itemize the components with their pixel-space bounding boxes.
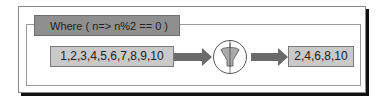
output-sequence-box: 2,4,6,8,10 [288,46,354,67]
input-sequence-box: 1,2,3,4,5,6,7,8,9,10 [50,46,174,67]
where-clause-header: Where ( n=> n%2 == 0 ) [34,15,180,36]
arrow-right-icon [174,47,214,67]
funnel-icon [212,39,248,75]
arrow-right-icon [251,47,289,67]
